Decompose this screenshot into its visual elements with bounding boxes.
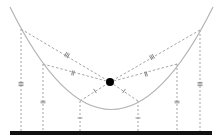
parabola-focus-directrix-diagram: [0, 0, 222, 139]
focus-line-p1: [21, 29, 110, 82]
tick-mark-icon: [146, 71, 147, 76]
directrix-line: [10, 131, 212, 135]
focus-line-p6: [110, 30, 200, 82]
parabola-curve: [10, 7, 213, 110]
focus-distance-lines: [21, 29, 200, 101]
tick-mark-icon: [73, 71, 74, 76]
segment-tick-p6: [149, 54, 154, 60]
focus-line-p2: [43, 64, 110, 82]
tick-mark-icon: [72, 70, 73, 75]
segment-tick-p2: [72, 70, 75, 75]
focus-point: [106, 78, 114, 86]
segment-tick-p5: [145, 71, 148, 76]
